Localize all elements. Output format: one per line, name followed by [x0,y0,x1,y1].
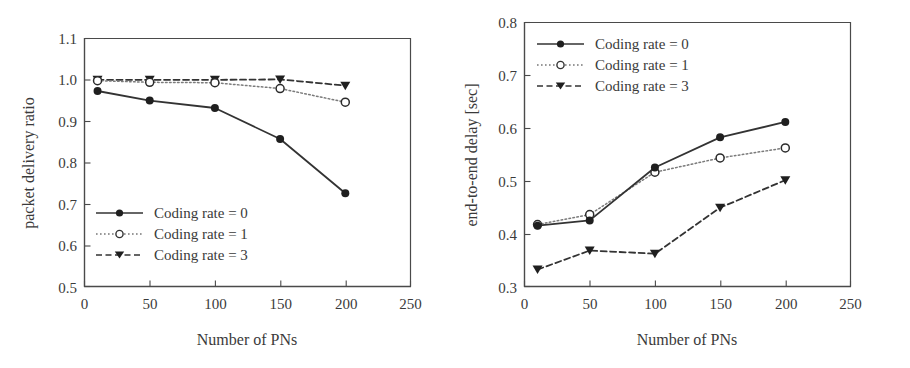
y-tick-label-0_8: 0.8 [58,155,77,171]
series-layer-coding-rate-0 [94,87,350,197]
legend-item-coding-rate-0[interactable]: Coding rate = 0 [537,36,689,52]
chart-panel-end-to-end-delay: end-to-end delay [sec] 0.8 0.7 0.6 0.5 0… [455,0,910,368]
data-point-open-circle [716,154,724,162]
series-line [538,122,786,226]
y-tick-label-0_8: 0.8 [498,15,517,31]
legend-item-coding-rate-3[interactable]: Coding rate = 3 [537,78,689,94]
legend-label-coding-rate-3: Coding rate = 3 [154,247,248,263]
x-axis-ticks [525,281,851,287]
x-tick-label-150: 150 [270,296,293,312]
data-point-open-circle [341,98,349,106]
y-tick-label-0_6: 0.6 [498,121,517,137]
y-axis-ticks [525,23,531,287]
data-point-filled-circle [716,133,724,141]
x-tick-label-200: 200 [775,296,798,312]
legend-marker-open-circle [116,230,123,237]
legend-item-coding-rate-0[interactable]: Coding rate = 0 [96,205,248,221]
series-line [538,180,786,269]
data-point-open-circle [146,78,154,86]
y-tick-label-0_4: 0.4 [498,227,517,243]
data-point-filled-circle [781,118,789,126]
legend: Coding rate = 0 Coding rate = 1 Coding r… [96,205,248,263]
x-axis-ticks [85,281,411,287]
end-to-end-delay-chart: end-to-end delay [sec] 0.8 0.7 0.6 0.5 0… [455,0,910,368]
legend-item-coding-rate-1[interactable]: Coding rate = 1 [537,57,689,73]
series-layer-coding-rate-1 [534,144,790,229]
data-point-filled-circle [276,135,284,143]
x-tick-label-100: 100 [644,296,667,312]
y-tick-label-1_0: 1.0 [58,72,77,88]
x-tick-label-100: 100 [204,296,227,312]
data-point-filled-circle [146,97,154,105]
legend-item-coding-rate-1[interactable]: Coding rate = 1 [96,226,248,242]
legend-label-coding-rate-1: Coding rate = 1 [595,57,689,73]
y-tick-label-0_3: 0.3 [498,280,517,296]
legend-label-coding-rate-0: Coding rate = 0 [595,36,689,52]
x-tick-label-50: 50 [583,296,598,312]
x-tick-label-250: 250 [399,296,422,312]
data-point-filled-triangle [340,82,350,91]
legend-label-coding-rate-1: Coding rate = 1 [154,226,248,242]
y-tick-label-0_6: 0.6 [58,238,77,254]
x-tick-label-50: 50 [143,296,158,312]
x-axis-title: Number of PNs [197,331,297,348]
y-axis-ticks [85,39,91,287]
y-tick-label-0_5: 0.5 [58,280,77,296]
data-point-filled-triangle [533,266,543,275]
y-axis-title: packet delivery ratio [20,97,38,229]
series-line [98,91,346,193]
legend-label-coding-rate-0: Coding rate = 0 [154,205,248,221]
legend-marker-filled-circle [116,209,123,216]
data-point-open-circle [211,79,219,87]
x-axis-title: Number of PNs [637,331,737,348]
legend: Coding rate = 0 Coding rate = 1 Coding r… [537,36,689,94]
y-tick-label-1_1: 1.1 [58,31,77,47]
y-tick-label-0_9: 0.9 [58,114,77,130]
y-axis-title: end-to-end delay [sec] [463,83,481,226]
x-tick-label-200: 200 [335,296,358,312]
packet-delivery-ratio-chart: packet delivery ratio 1.1 1.0 0.9 0.8 0.… [0,0,455,368]
series-line [98,81,346,103]
x-tick-label-0: 0 [521,296,529,312]
series-layer-coding-rate-0 [534,118,790,230]
series-line [538,148,786,225]
data-point-filled-circle [94,87,102,95]
chart-panel-packet-delivery-ratio: packet delivery ratio 1.1 1.0 0.9 0.8 0.… [0,0,455,368]
legend-item-coding-rate-3[interactable]: Coding rate = 3 [96,247,248,263]
data-point-open-circle [94,77,102,85]
data-point-filled-circle [534,222,542,230]
data-point-filled-triangle [780,176,790,185]
data-point-open-circle [781,144,789,152]
figure-container: packet delivery ratio 1.1 1.0 0.9 0.8 0.… [0,0,910,368]
y-tick-label-0_5: 0.5 [498,174,517,190]
data-point-filled-circle [341,189,349,197]
data-point-filled-circle [211,104,219,112]
data-point-filled-circle [651,163,659,171]
x-tick-label-0: 0 [81,296,89,312]
series-layer-coding-rate-3 [533,176,791,274]
x-tick-label-150: 150 [710,296,733,312]
data-point-filled-circle [586,216,594,224]
y-tick-label-0_7: 0.7 [58,197,77,213]
data-point-open-circle [276,85,284,93]
x-tick-label-250: 250 [839,296,862,312]
series-layer-coding-rate-1 [94,77,350,107]
legend-marker-filled-circle [557,40,564,47]
y-tick-label-0_7: 0.7 [498,68,517,84]
legend-label-coding-rate-3: Coding rate = 3 [595,78,689,94]
legend-marker-open-circle [557,61,564,68]
